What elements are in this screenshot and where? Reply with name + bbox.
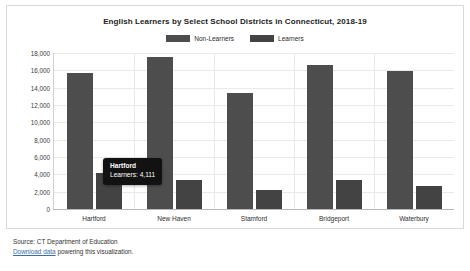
y-axis-tick-label: 10,000 bbox=[31, 119, 50, 126]
download-line: Download data powering this visualizatio… bbox=[13, 247, 453, 257]
bar-learners[interactable] bbox=[416, 186, 442, 209]
source-line: Source: CT Department of Education bbox=[13, 237, 453, 247]
bar-group-waterbury: Waterbury bbox=[374, 53, 454, 209]
chart-footer: Source: CT Department of Education Downl… bbox=[13, 237, 453, 257]
download-line-suffix: powering this visualization. bbox=[56, 248, 134, 255]
y-axis-tick-label: 18,000 bbox=[31, 50, 50, 57]
bar-learners[interactable] bbox=[336, 180, 362, 210]
bar-non-learners[interactable] bbox=[387, 71, 413, 209]
chart-tooltip: Hartford Learners: 4,111 bbox=[103, 158, 162, 185]
legend-item-non-learners[interactable]: Non-Learners bbox=[166, 35, 234, 42]
x-axis-tick-label: Waterbury bbox=[374, 215, 454, 222]
x-axis-tick-label: Stamford bbox=[214, 215, 294, 222]
chart-title: English Learners by Select School Distri… bbox=[7, 17, 463, 26]
download-data-link[interactable]: Download data bbox=[13, 248, 56, 255]
x-axis-tick-label: New Haven bbox=[134, 215, 214, 222]
x-axis-tick-label: Hartford bbox=[54, 215, 134, 222]
legend-item-learners[interactable]: Learners bbox=[250, 35, 304, 42]
tooltip-value: Learners: 4,111 bbox=[110, 171, 155, 180]
visualization-frame: English Learners by Select School Distri… bbox=[6, 5, 464, 229]
gridline-zero: 0 bbox=[54, 209, 454, 210]
bar-non-learners[interactable] bbox=[67, 73, 93, 209]
y-axis-tick-label: 2,000 bbox=[34, 188, 50, 195]
legend-swatch-learners bbox=[250, 35, 274, 42]
y-axis-tick-label: 0 bbox=[46, 206, 50, 213]
chart-legend: Non-Learners Learners bbox=[7, 35, 463, 42]
legend-swatch-non-learners bbox=[166, 35, 190, 42]
y-axis-tick-label: 4,000 bbox=[34, 171, 50, 178]
bar-group-hartford: Hartford bbox=[54, 53, 134, 209]
legend-label-learners: Learners bbox=[278, 35, 304, 42]
bar-group-bridgeport: Bridgeport bbox=[294, 53, 374, 209]
tooltip-title: Hartford bbox=[110, 162, 155, 171]
bar-non-learners[interactable] bbox=[307, 65, 333, 209]
y-axis-tick-label: 16,000 bbox=[31, 67, 50, 74]
y-axis-tick-label: 14,000 bbox=[31, 84, 50, 91]
bar-group-new-haven: New Haven bbox=[134, 53, 214, 209]
bar-group-stamford: Stamford bbox=[214, 53, 294, 209]
bar-non-learners[interactable] bbox=[147, 57, 173, 209]
plot-area: 18,000 16,000 14,000 12,000 10,000 8,000… bbox=[53, 53, 454, 210]
bar-non-learners[interactable] bbox=[227, 93, 253, 209]
bar-learners[interactable] bbox=[176, 180, 202, 209]
bar-learners[interactable] bbox=[256, 190, 282, 209]
x-axis-tick-label: Bridgeport bbox=[294, 215, 374, 222]
y-axis-tick-label: 6,000 bbox=[34, 154, 50, 161]
y-axis-tick-label: 8,000 bbox=[34, 136, 50, 143]
legend-label-non-learners: Non-Learners bbox=[194, 35, 234, 42]
bar-groups: Hartford New Haven Stamford Bridgeport bbox=[54, 53, 454, 209]
y-axis-tick-label: 12,000 bbox=[31, 102, 50, 109]
